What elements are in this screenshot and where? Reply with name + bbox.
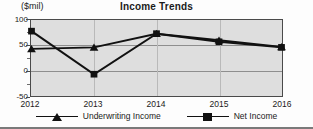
chart-figure: Income Trends ($mil) 100 50 0 -50 2012 2… [0,0,313,129]
square-marker-icon [187,112,229,121]
plot-area [30,19,283,97]
data-point-marker [28,28,35,35]
legend-item-underwriting-income: Underwriting Income [36,111,161,121]
chart-title: Income Trends [0,0,313,13]
legend-item-net-income: Net Income [187,111,277,121]
series-line-2 [31,31,281,74]
legend-label-underwriting-income: Underwriting Income [83,111,161,121]
data-point-marker [153,30,160,37]
x-tick-label-2015: 2015 [199,99,239,109]
legend-label-net-income: Net Income [234,111,277,121]
data-point-marker [216,38,223,45]
triangle-marker-icon [36,112,78,121]
y-axis-unit-caption: ($mil) [21,0,44,13]
data-point-marker [91,71,98,78]
y-tick-label-100: 100 [15,16,28,24]
chart-legend: Underwriting Income Net Income [0,111,313,121]
series-plot [31,20,282,96]
x-tick-label-2012: 2012 [10,99,50,109]
y-tick-mark-neg50 [26,97,30,98]
x-tick-label-2013: 2013 [73,99,113,109]
x-tick-label-2016: 2016 [262,99,302,109]
x-tick-label-2014: 2014 [136,99,176,109]
data-point-marker [278,44,285,51]
